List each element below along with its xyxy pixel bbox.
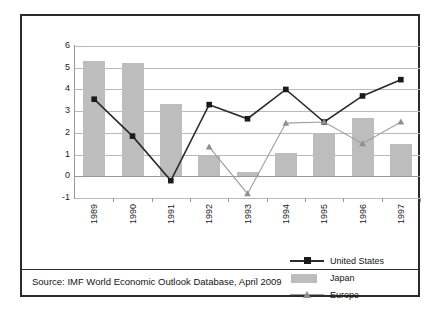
legend-label: Europe — [330, 290, 359, 300]
line-europe — [209, 122, 401, 194]
x-tick-1995 — [343, 198, 344, 202]
legend-bar-swatch-icon — [290, 272, 324, 284]
marker-united-states-0 — [91, 96, 97, 102]
x-tick-label-1997: 1997 — [396, 204, 406, 224]
legend-item-united-states[interactable]: United States — [290, 252, 410, 269]
line-united-states — [94, 80, 401, 181]
marker-united-states-4 — [245, 116, 251, 122]
marker-europe-0 — [206, 144, 213, 150]
legend-item-japan[interactable]: Japan — [290, 269, 410, 286]
x-tick-label-1996: 1996 — [358, 204, 368, 224]
y-tick-label-5: 5 — [42, 63, 70, 72]
y-tick-label-3: 3 — [42, 106, 70, 115]
y-tick-label-4: 4 — [42, 84, 70, 93]
x-tick-1990 — [152, 198, 153, 202]
marker-united-states-8 — [398, 77, 404, 83]
legend-line-square-icon — [290, 255, 324, 267]
marker-europe-4 — [359, 140, 366, 146]
x-tick-label-1991: 1991 — [166, 204, 176, 224]
x-tick-1994 — [305, 198, 306, 202]
marker-united-states-2 — [168, 178, 174, 184]
source-note: Source: IMF World Economic Outlook Datab… — [32, 276, 282, 287]
y-tick-label-0: 0 — [42, 171, 70, 180]
marker-united-states-1 — [130, 133, 136, 139]
x-tick-1996 — [382, 198, 383, 202]
x-tick-1989 — [113, 198, 114, 202]
x-axis-tick-labels: 198919901991199219931994199519961997 — [75, 204, 420, 248]
legend-label: Japan — [330, 273, 355, 283]
bar-swatch-icon — [291, 274, 317, 283]
triangle-marker-icon — [303, 291, 311, 298]
marker-united-states-5 — [283, 87, 289, 93]
y-tick-label-1: 1 — [42, 150, 70, 159]
legend-label: United States — [330, 256, 384, 266]
marker-united-states-3 — [206, 102, 212, 108]
legend-item-europe[interactable]: Europe — [290, 286, 410, 303]
x-tick-label-1994: 1994 — [281, 204, 291, 224]
x-tick-label-1992: 1992 — [204, 204, 214, 224]
marker-europe-5 — [397, 119, 404, 125]
y-tick-label-2: 2 — [42, 128, 70, 137]
square-marker-icon — [304, 257, 311, 264]
x-tick-label-1995: 1995 — [319, 204, 329, 224]
legend-line-triangle-icon — [290, 289, 324, 301]
y-tick-label--1: -1 — [42, 193, 70, 202]
x-tick-label-1993: 1993 — [243, 204, 253, 224]
x-tick-1993 — [267, 198, 268, 202]
chart-frame: 6543210-1 198919901991199219931994199519… — [20, 14, 420, 297]
marker-united-states-7 — [360, 93, 366, 99]
x-tick-label-1989: 1989 — [89, 204, 99, 224]
chart-legend: United StatesJapanEurope — [290, 252, 410, 303]
plot-area — [75, 46, 420, 198]
y-axis-tick-labels: 6543210-1 — [40, 46, 70, 198]
x-tick-1991 — [190, 198, 191, 202]
x-tick-label-1990: 1990 — [128, 204, 138, 224]
y-tick-label-6: 6 — [42, 41, 70, 50]
source-divider — [22, 269, 418, 270]
x-tick-1997 — [420, 198, 421, 202]
x-tick-1992 — [228, 198, 229, 202]
x-axis-ticks — [75, 198, 420, 203]
line-series-layer — [75, 46, 420, 198]
